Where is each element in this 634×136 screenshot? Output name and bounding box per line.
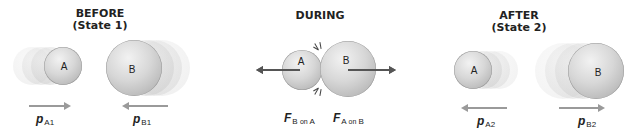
momentum-label-a2: pA2 bbox=[477, 114, 495, 129]
impact-mark-icon bbox=[319, 89, 321, 96]
ball-b-label: B bbox=[595, 67, 602, 78]
before-title-line2: (State 1) bbox=[70, 20, 130, 32]
momentum-label-a1: pA1 bbox=[36, 112, 54, 127]
after-title-line2: (State 2) bbox=[489, 22, 549, 34]
ball-a-label: A bbox=[298, 56, 305, 67]
during-title: DURING bbox=[290, 10, 350, 22]
ball-a-label: A bbox=[61, 61, 68, 72]
during-panel: DURING A B FB on A FA on B bbox=[220, 0, 420, 136]
ball-b-label: B bbox=[129, 64, 136, 75]
force-label-b-on-a: FB on A bbox=[284, 111, 315, 126]
momentum-arrow-b2 bbox=[559, 107, 599, 109]
ball-b-label: B bbox=[343, 55, 350, 66]
momentum-label-b1: pB1 bbox=[133, 112, 151, 127]
force-label-a-on-b: FA on B bbox=[333, 111, 364, 126]
momentum-label-b2: pB2 bbox=[578, 114, 596, 129]
after-title: AFTER (State 2) bbox=[489, 10, 549, 34]
momentum-arrow-a2 bbox=[467, 107, 507, 109]
force-arrow-b-on-a-stem bbox=[262, 69, 300, 71]
before-panel: BEFORE (State 1) A B pA1 pB1 bbox=[0, 0, 220, 136]
impact-mark-icon bbox=[319, 42, 321, 49]
force-arrow-a-on-b-stem bbox=[348, 69, 390, 71]
ball-a-label: A bbox=[471, 65, 478, 76]
after-panel: AFTER (State 2) A B pA2 pB2 bbox=[420, 0, 634, 136]
before-title: BEFORE (State 1) bbox=[70, 8, 130, 32]
momentum-arrow-a1 bbox=[29, 105, 65, 107]
momentum-arrow-b1 bbox=[128, 105, 168, 107]
